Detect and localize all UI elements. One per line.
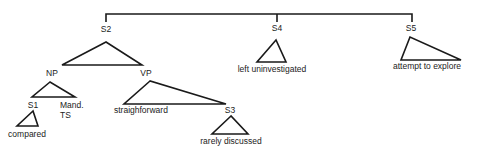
- tree-diagram: S2 S4 S5 left uninvestigated attempt to …: [0, 0, 477, 159]
- top-connector-line: [106, 14, 412, 22]
- node-s2: S2: [101, 24, 111, 34]
- node-s5: S5: [406, 23, 416, 33]
- leaf-rarely-discussed: rarely discussed: [200, 136, 261, 146]
- node-np: NP: [46, 68, 58, 78]
- node-s1: S1: [28, 100, 38, 110]
- node-ts: TS: [60, 110, 71, 120]
- leaf-left-uninvestigated: left uninvestigated: [238, 64, 307, 74]
- leaf-attempt-to-explore: attempt to explore: [393, 61, 461, 71]
- s4-triangle: [257, 40, 286, 62]
- np-triangle: [32, 82, 75, 97]
- s3-triangle: [212, 116, 248, 134]
- leaf-compared: compared: [8, 129, 46, 139]
- leaf-straighforward: straighforward: [114, 105, 168, 115]
- s2-triangle: [62, 42, 142, 65]
- node-vp: VP: [140, 68, 151, 78]
- s5-triangle: [401, 37, 461, 60]
- node-s3: S3: [225, 105, 235, 115]
- node-s4: S4: [272, 23, 282, 33]
- node-mand: Mand.: [60, 100, 84, 110]
- vp-triangle: [124, 81, 226, 104]
- s1-triangle: [17, 111, 38, 126]
